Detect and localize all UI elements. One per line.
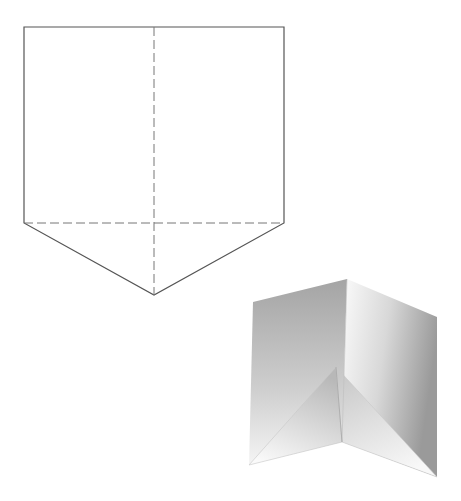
folding-diagram (0, 0, 461, 501)
folded-shape (249, 279, 437, 477)
flat-net (24, 27, 284, 295)
